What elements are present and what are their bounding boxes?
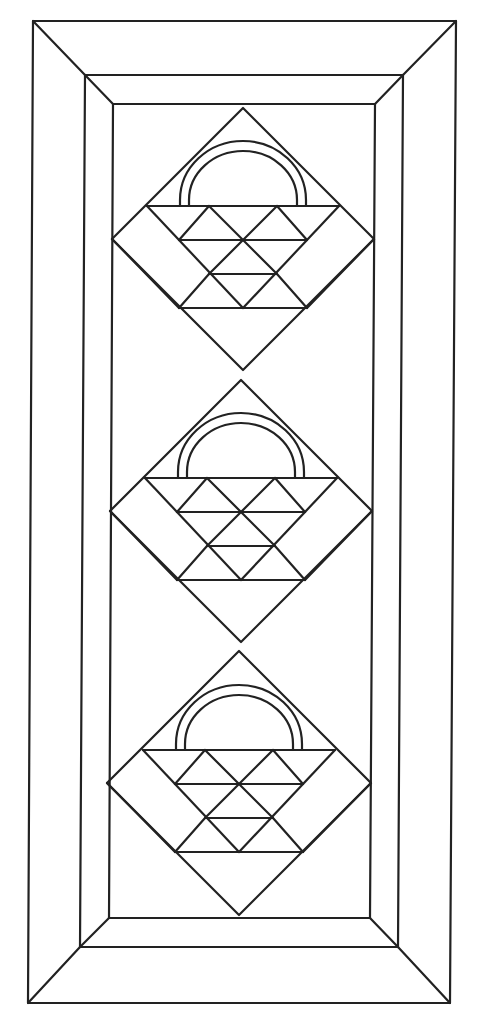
basket-block-1	[112, 108, 374, 370]
band-line-left	[112, 239, 179, 308]
triangle-edge	[275, 546, 305, 580]
miter-line-inner-tl	[85, 75, 113, 104]
miter-line-inner-tr	[375, 75, 403, 104]
triangle-edge	[243, 206, 277, 240]
basket-blocks	[107, 108, 374, 915]
band-line-right	[303, 783, 371, 852]
band-line-left	[107, 783, 175, 852]
miter-line-outer-bl	[28, 947, 80, 1003]
triangle-edge	[273, 750, 303, 784]
band-line-left	[110, 511, 177, 580]
handle-inner-arc	[185, 695, 293, 750]
triangle-edge	[243, 240, 277, 274]
triangle-edge	[275, 478, 305, 512]
triangle-edge	[209, 240, 243, 274]
quilt-drawing	[0, 0, 477, 1029]
triangle-edge	[277, 274, 307, 308]
triangle-edge	[241, 478, 275, 512]
miter-line-outer-tl	[33, 21, 85, 75]
triangle-edge	[277, 206, 307, 240]
triangle-edge	[207, 512, 241, 546]
band-line-right	[305, 511, 372, 580]
miter-line-outer-br	[398, 947, 450, 1003]
triangle-edge	[205, 784, 239, 818]
triangle-edge	[239, 784, 273, 818]
triangle-edge	[241, 512, 275, 546]
triangle-edge	[177, 478, 207, 512]
triangle-edge	[209, 206, 243, 240]
handle-inner-arc	[187, 423, 295, 478]
triangle-edge	[239, 750, 273, 784]
quilt-pattern-canvas: Basket quilt pattern line drawing	[0, 0, 477, 1029]
triangle-edge	[273, 818, 303, 852]
miter-line-inner-br	[370, 918, 398, 947]
handle-inner-arc	[189, 151, 297, 206]
triangle-edge	[175, 750, 205, 784]
triangle-edge	[205, 750, 239, 784]
miter-line-inner-bl	[80, 918, 109, 947]
basket-block-3	[107, 651, 371, 915]
miter-line-outer-tr	[403, 21, 456, 75]
triangle-edge	[175, 818, 205, 852]
triangle-edge	[177, 546, 207, 580]
triangle-edge	[179, 206, 209, 240]
triangle-edge	[207, 478, 241, 512]
band-line-right	[307, 239, 374, 308]
triangle-edge	[179, 274, 209, 308]
basket-block-2	[110, 380, 372, 642]
